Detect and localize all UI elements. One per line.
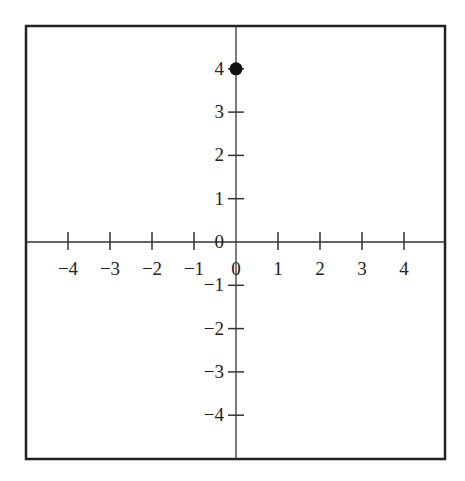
y-tick-label: −3 [204, 361, 224, 382]
x-tick-label: 1 [273, 258, 283, 279]
y-tick-label: −1 [204, 274, 224, 295]
data-point [230, 62, 243, 75]
x-tick-label: 2 [315, 258, 325, 279]
y-tick-label: 0 [215, 231, 225, 252]
y-tick-label: 1 [215, 188, 225, 209]
x-tick-label: −2 [142, 258, 162, 279]
y-tick-label: 3 [215, 101, 225, 122]
x-axis-ticks: −4−3−2−101234 [58, 232, 409, 279]
x-tick-label: −4 [58, 258, 79, 279]
x-tick-label: −1 [184, 258, 204, 279]
data-points [230, 62, 243, 75]
x-tick-label: −3 [100, 258, 120, 279]
coordinate-plane: −4−3−2−101234 −4−3−2−101234 [0, 0, 465, 481]
x-tick-label: 0 [231, 258, 241, 279]
x-tick-label: 3 [357, 258, 367, 279]
y-tick-label: −2 [204, 318, 224, 339]
x-tick-label: 4 [399, 258, 409, 279]
y-tick-label: −4 [204, 404, 225, 425]
y-tick-label: 4 [215, 58, 225, 79]
y-tick-label: 2 [215, 144, 225, 165]
